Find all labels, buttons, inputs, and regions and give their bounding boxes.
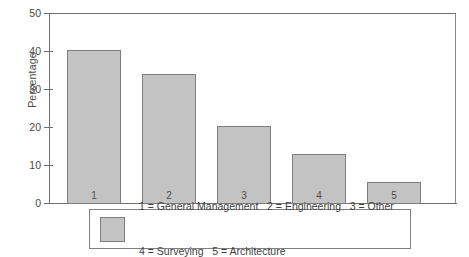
legend-box: 1 = General Management 2 = Engineering 3…: [89, 209, 411, 249]
y-tick-label-40: 40: [15, 45, 41, 57]
bar-1: 1: [67, 50, 121, 204]
y-tick-label-50: 50: [15, 7, 41, 19]
legend-text: 1 = General Management 2 = Engineering 3…: [139, 169, 394, 257]
y-tick-label-30: 30: [15, 83, 41, 95]
legend-line-2: 4 = Surveying 5 = Architecture: [139, 244, 394, 257]
y-tick-label-0: 0: [15, 197, 41, 209]
bar-chart-figure: Percentage 50 40 30 20 10 0 1 2 3 4 5 1 …: [0, 0, 469, 257]
legend-line-1: 1 = General Management 2 = Engineering 3…: [139, 199, 394, 214]
y-tick-label-10: 10: [15, 159, 41, 171]
legend-color-swatch: [100, 217, 125, 242]
y-tick-label-20: 20: [15, 121, 41, 133]
bar-label-1: 1: [68, 190, 120, 201]
